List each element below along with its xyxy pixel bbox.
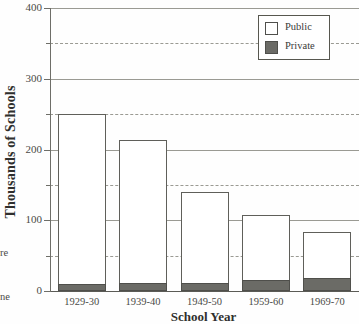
margin-fragment-1: re bbox=[0, 247, 8, 258]
x-tick-label-1939-40: 1939-40 bbox=[108, 296, 178, 307]
bar-segment-public-1929-30 bbox=[58, 114, 106, 291]
y-tick-label-100: 100 bbox=[0, 213, 42, 225]
x-tick-label-1959-60: 1959-60 bbox=[231, 296, 301, 307]
private-swatch bbox=[265, 41, 278, 54]
bar-segment-private-1949-50 bbox=[181, 283, 229, 291]
bar-1949-50 bbox=[181, 192, 229, 291]
bar-1939-40 bbox=[119, 140, 167, 291]
bar-segment-private-1929-30 bbox=[58, 284, 106, 291]
x-tick-label-1949-50: 1949-50 bbox=[170, 296, 240, 307]
bar-segment-private-1959-60 bbox=[242, 280, 290, 291]
y-tick-label-200: 200 bbox=[0, 143, 42, 155]
bar-segment-private-1969-70 bbox=[303, 278, 351, 291]
legend-label-public: Public bbox=[285, 21, 312, 32]
axis-baseline bbox=[50, 291, 359, 292]
x-tick-label-1929-30: 1929-30 bbox=[47, 296, 117, 307]
legend-label-private: Private bbox=[285, 40, 315, 51]
legend: Public Private bbox=[258, 15, 330, 60]
bar-segment-public-1939-40 bbox=[119, 140, 167, 291]
bar-segment-public-1949-50 bbox=[181, 192, 229, 291]
chart-figure: Thousands of Schools 0100200300400 1929-… bbox=[0, 0, 359, 324]
y-tick-label-400: 400 bbox=[0, 1, 42, 13]
y-tick-0 bbox=[44, 291, 50, 292]
public-swatch bbox=[265, 22, 278, 35]
bar-1929-30 bbox=[58, 114, 106, 291]
bar-1959-60 bbox=[242, 215, 290, 291]
bar-segment-private-1939-40 bbox=[119, 283, 167, 291]
x-tick-label-1969-70: 1969-70 bbox=[292, 296, 359, 307]
x-axis-title: School Year bbox=[50, 309, 357, 324]
margin-fragment-2: ne bbox=[0, 291, 10, 302]
bar-1969-70 bbox=[303, 232, 351, 291]
y-tick-label-300: 300 bbox=[0, 72, 42, 84]
